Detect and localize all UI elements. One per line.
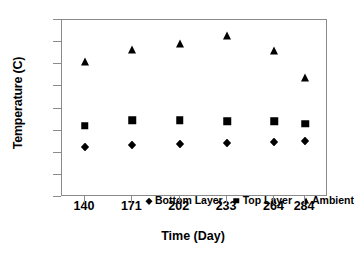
data-point-triangle <box>301 73 309 81</box>
y-tick-mark <box>53 152 61 153</box>
x-tick-mark <box>179 196 180 203</box>
y-tick-mark <box>53 85 61 86</box>
x-tick-mark <box>84 196 85 203</box>
data-point-diamond <box>128 141 136 149</box>
x-tick-mark <box>131 196 132 203</box>
data-point-diamond <box>301 137 309 145</box>
data-point-triangle <box>128 45 136 53</box>
y-tick-mark <box>53 41 61 42</box>
data-point-triangle <box>176 40 184 48</box>
data-point-triangle <box>270 47 278 55</box>
data-point-square <box>81 122 89 130</box>
data-point-square <box>301 120 309 128</box>
data-point-triangle <box>223 32 231 40</box>
y-axis-title: Temperature (C) <box>11 13 25 193</box>
data-point-diamond <box>270 137 278 145</box>
data-point-diamond <box>175 140 183 148</box>
y-tick-mark <box>53 130 61 131</box>
data-point-triangle <box>81 58 89 66</box>
data-point-diamond <box>223 138 231 146</box>
x-axis-title: Time (Day) <box>58 229 328 243</box>
data-point-square <box>223 118 231 126</box>
y-tick-mark <box>53 108 61 109</box>
plot-area: Bottom LayerTop LayerAmbient <box>61 19 327 196</box>
x-tick-mark <box>226 196 227 203</box>
x-tick-mark <box>304 196 305 203</box>
data-point-square <box>271 118 279 126</box>
y-tick-mark <box>53 196 61 197</box>
data-point-square <box>129 116 137 124</box>
y-tick-mark <box>53 63 61 64</box>
data-point-diamond <box>81 142 89 150</box>
y-tick-mark <box>53 174 61 175</box>
y-tick-mark <box>53 19 61 20</box>
data-point-square <box>176 116 184 124</box>
